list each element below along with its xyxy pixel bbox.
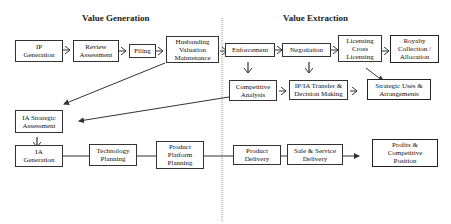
arrow-competitive-to-ia-strategic [79,97,229,121]
box-ip-generation: IP Generation [15,40,63,62]
box-label: Licensing Cross Licensing [346,37,374,61]
box-label: Royalty Collection / Allocation [398,37,431,61]
box-label: IA Strategic Assessment [22,114,56,130]
box-label: Filing [134,47,151,55]
value-generation-header: Value Generation [82,13,149,23]
box-filing: Filing [129,44,156,58]
box-competitive-analysis: Competitive Analysis [229,80,277,101]
box-label: Sale & Service Delivery [294,147,336,163]
box-licensing-cross-licensing: Licensing Cross Licensing [338,35,382,62]
box-review-assessment: Review Assessment [73,40,119,62]
box-label: Husbanding Valuation Maintenance [174,38,210,62]
box-royalty-collection-allocation: Royalty Collection / Allocation [390,35,439,63]
box-label: Review Assessment [79,43,112,59]
box-label: Profits & Competitive Position [388,141,423,165]
box-negotiation: Negotiation [282,43,331,57]
box-label: IP Generation [23,43,54,59]
box-enforcement: Enforcement [225,43,275,57]
box-sale-service-delivery: Sale & Service Delivery [287,144,343,165]
box-ipia-transfer-decision-making: IP/IA Transfer & Decision Making [289,80,348,100]
box-label: IA Generation [23,148,54,164]
box-label: Enforcement [232,46,268,54]
box-label: Technology Planning [97,147,130,163]
box-product-platform-planning: Product Platform Planning [156,141,204,169]
box-ia-generation: IA Generation [15,145,63,167]
box-technology-planning: Technology Planning [89,144,137,166]
box-label: IP/IA Transfer & Decision Making [294,82,342,98]
value-extraction-header: Value Extraction [283,13,348,23]
arrow-husbanding-to-ia-strategic [64,63,165,104]
box-label: Product Platform Planning [168,143,193,167]
box-label: Product Delivery [245,147,270,163]
box-profits-competitive-position: Profits & Competitive Position [372,139,438,167]
box-label: Strategic Uses & Arrangements [375,82,422,98]
connector-layer [0,0,451,224]
box-label: Competitive Analysis [236,83,271,99]
box-product-delivery: Product Delivery [233,145,281,165]
box-ia-strategic-assessment: IA Strategic Assessment [15,110,63,133]
box-label: Negotiation [290,46,323,54]
box-strategic-uses-arrangements: Strategic Uses & Arrangements [367,79,431,100]
box-husbanding-valuation-maintenance: Husbanding Valuation Maintenance [166,36,219,63]
